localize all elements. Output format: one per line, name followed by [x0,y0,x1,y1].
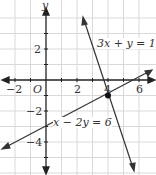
x-tick-label-4: 4 [104,84,111,95]
equation-label-x-minus-2y: x − 2y = 6 [53,117,112,128]
x-tick-label-2: 2 [74,84,81,95]
equation-label-3x-plus-y: 3x + y = 1 [97,38,156,49]
arrow-right-icon [145,70,152,76]
y-tick-label-2: 2 [34,44,41,55]
arrow-down-icon [130,163,135,171]
origin-label: O [33,84,42,95]
y-tick-label-neg4: −4 [26,137,42,148]
x-tick-label-6: 6 [136,84,143,95]
x-tick-label-neg2: −2 [6,84,22,95]
x-axis-right-arrow-icon [148,77,155,83]
y-axis-label: y [42,0,48,11]
y-tick-label-neg2: −2 [26,106,42,117]
arrow-left-icon [2,143,10,149]
